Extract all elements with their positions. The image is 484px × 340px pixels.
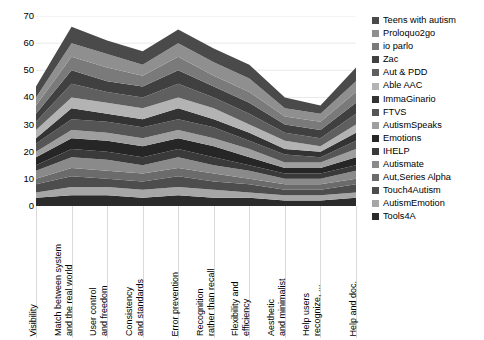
legend-swatch-icon [372,148,379,155]
legend-item-label: IHELP [383,147,410,156]
legend-item[interactable]: Zac [372,53,484,66]
y-tick-label: 60 [12,38,34,48]
legend-item-label: AutismSpeaks [383,121,442,130]
legend-swatch-icon [372,17,379,24]
legend-item[interactable]: Proloquo2go [372,27,484,40]
legend-swatch-icon [372,174,379,181]
legend-item-label: Autismate [383,160,424,169]
legend-item-label: Touch4Autism [383,186,441,195]
legend-item-label: Aut & PDD [383,68,427,77]
legend-item[interactable]: Able AAC [372,79,484,92]
legend-item[interactable]: Emotions [372,132,484,145]
chart-legend: Teens with autismProloquo2goio parloZacA… [372,14,484,224]
legend-swatch-icon [372,187,379,194]
legend-swatch-icon [372,69,379,76]
y-tick-label: 30 [12,120,34,130]
legend-swatch-icon [372,83,379,90]
legend-item[interactable]: Aut,Series Alpha [372,171,484,184]
legend-swatch-icon [372,161,379,168]
x-tick-label: Aestheticand minimalist [266,278,287,336]
chart-page: 706050403020100 VisibilityMatch between … [0,0,484,340]
y-tick-label: 20 [12,147,34,157]
x-tick-label: Consistencyand standards [124,279,145,336]
x-tick-label: Error prevention [170,271,181,336]
y-tick-label: 0 [12,201,34,211]
legend-swatch-icon [372,109,379,116]
legend-item[interactable]: Tools4A [372,210,484,223]
x-tick-label: User controland freedom [88,285,109,336]
legend-swatch-icon [372,43,379,50]
legend-item[interactable]: ImmaGinario [372,93,484,106]
y-tick-label: 10 [12,174,34,184]
legend-swatch-icon [372,213,379,220]
legend-item-label: Emotions [383,134,421,143]
legend-item[interactable]: AutismEmotion [372,197,484,210]
legend-item-label: Teens with autism [383,16,456,25]
y-axis: 706050403020100 [8,0,34,340]
legend-swatch-icon [372,135,379,142]
legend-swatch-icon [372,96,379,103]
y-tick-label: 70 [12,11,34,21]
x-tick-label: Match between systemand the real world [53,244,74,336]
x-tick-label: Flexibility andefficiency [230,281,251,336]
stacked-area-chart: 706050403020100 VisibilityMatch between … [0,0,365,340]
legend-item[interactable]: Autismate [372,158,484,171]
legend-item-label: Able AAC [383,81,422,90]
legend-item-label: FTVS [383,108,406,117]
x-tick-label: Recognitionrather than recall [195,268,216,336]
x-tick-label: Help and doc. [348,280,359,336]
legend-item-label: Tools4A [383,212,416,221]
legend-item[interactable]: FTVS [372,106,484,119]
legend-item[interactable]: io parlo [372,40,484,53]
y-tick-label: 50 [12,66,34,76]
legend-item-label: Zac [383,55,398,64]
legend-item[interactable]: Aut & PDD [372,66,484,79]
legend-item[interactable]: AutismSpeaks [372,119,484,132]
legend-swatch-icon [372,30,379,37]
x-tick-label: Help usersrecognize, ... [301,284,322,336]
y-tick-label: 40 [12,93,34,103]
legend-item[interactable]: IHELP [372,145,484,158]
legend-item-label: io parlo [383,42,413,51]
legend-item[interactable]: Teens with autism [372,14,484,27]
legend-item-label: ImmaGinario [383,95,436,104]
x-tick-label: Visibility [28,304,39,336]
legend-swatch-icon [372,200,379,207]
legend-item[interactable]: Touch4Autism [372,184,484,197]
plot-svg [36,16,356,206]
legend-swatch-icon [372,122,379,129]
plot-area [36,16,356,206]
legend-item-label: Proloquo2go [383,29,435,38]
legend-item-label: Aut,Series Alpha [383,173,451,182]
legend-item-label: AutismEmotion [383,199,445,208]
x-axis: VisibilityMatch between systemand the re… [36,206,356,340]
legend-swatch-icon [372,56,379,63]
